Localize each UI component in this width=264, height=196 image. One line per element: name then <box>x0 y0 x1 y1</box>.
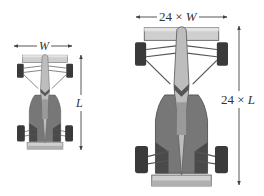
large-width-label: 24 × W <box>157 10 199 23</box>
large-width-var: W <box>186 9 197 24</box>
large-length-factor: 24 <box>221 92 234 107</box>
large-width-factor: 24 <box>159 9 172 24</box>
scale-diagram: W L 24 × W 24 × L <box>0 0 264 196</box>
small-width-var: W <box>39 39 49 53</box>
large-length-var: L <box>248 92 255 107</box>
large-car <box>135 27 228 186</box>
small-car <box>17 55 73 150</box>
small-length-label: L <box>76 95 83 111</box>
large-width-times: × <box>175 9 182 24</box>
large-length-times: × <box>237 92 244 107</box>
small-length-var: L <box>76 96 83 110</box>
large-length-label: 24 × L <box>221 91 255 108</box>
small-width-label: W <box>37 40 51 52</box>
